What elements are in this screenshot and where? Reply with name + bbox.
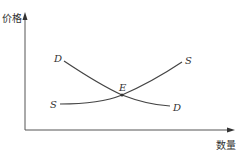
y-axis-arrow-icon xyxy=(23,12,28,20)
demand-end-label: D xyxy=(172,102,181,113)
supply-demand-diagram: 价格 数量 D D S S E xyxy=(0,0,244,153)
supply-start-label: S xyxy=(50,99,57,110)
x-axis-label: 数量 xyxy=(216,139,236,151)
equilibrium-point xyxy=(121,94,124,97)
demand-curve xyxy=(64,61,170,106)
x-axis-arrow-icon xyxy=(227,128,235,133)
equilibrium-label: E xyxy=(118,82,127,93)
y-axis-label: 价格 xyxy=(2,12,22,24)
demand-start-label: D xyxy=(53,53,62,64)
supply-end-label: S xyxy=(185,55,192,66)
